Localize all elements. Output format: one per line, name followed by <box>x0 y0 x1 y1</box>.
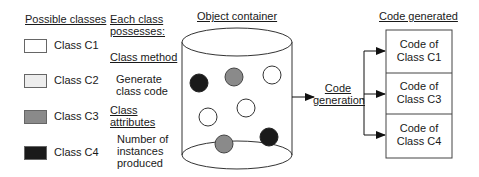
output-title: Code generated <box>379 10 458 22</box>
code-generation-line2: generation <box>313 94 363 106</box>
object-c4 <box>260 128 278 146</box>
output-c4-line1: Code of <box>386 122 452 135</box>
object-c1 <box>263 66 281 84</box>
object-c1 <box>199 108 217 126</box>
output-c4-line2: Class C4 <box>386 135 452 148</box>
code-generation-line1: Code <box>313 82 363 94</box>
output-c3-line2: Class C3 <box>386 93 452 106</box>
output-c3-line1: Code of <box>386 80 452 93</box>
output-box-c1: Code of Class C1 <box>386 38 452 64</box>
output-c1-line1: Code of <box>386 38 452 51</box>
cylinder-container <box>182 28 292 169</box>
output-box-c4: Code of Class C4 <box>386 122 452 148</box>
object-c3 <box>215 135 233 153</box>
output-c1-line2: Class C1 <box>386 51 452 64</box>
code-generation-label: Code generation <box>313 82 363 106</box>
object-c4 <box>190 74 208 92</box>
object-c3 <box>225 68 243 86</box>
output-box-c3: Code of Class C3 <box>386 80 452 106</box>
object-c1 <box>237 99 255 117</box>
